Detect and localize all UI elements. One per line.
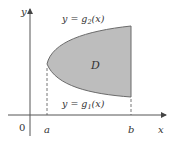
tick-b-label: b <box>128 124 134 135</box>
lower-curve-label: y = g1(x) <box>61 98 105 111</box>
upper-curve-label: y = g2(x) <box>61 13 105 26</box>
y-axis-label: y <box>20 6 27 17</box>
tick-a-label: a <box>44 124 50 135</box>
x-axis-label: x <box>158 124 164 135</box>
region-d-label: D <box>90 59 100 72</box>
diagram-canvas: y x 0 a b y = g2(x) y = g1(x) D <box>0 0 180 141</box>
region-d <box>47 26 131 97</box>
origin-label: 0 <box>19 122 25 133</box>
